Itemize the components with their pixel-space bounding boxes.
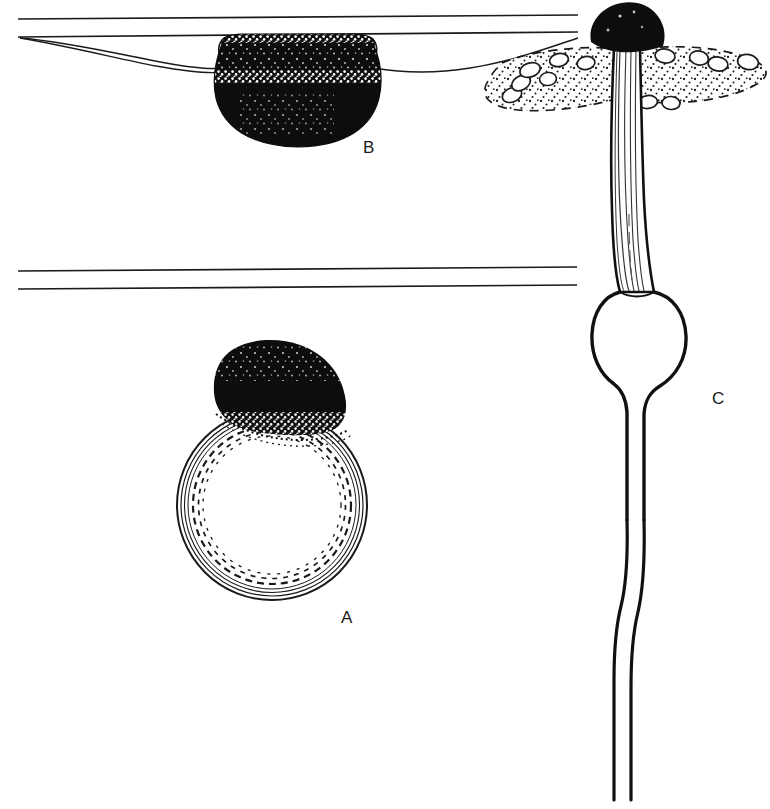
sporangium-rim-b — [214, 34, 384, 43]
cap-highlight — [641, 26, 643, 28]
sporangium-speckle-body-b — [238, 92, 334, 134]
cap-highlight — [618, 14, 621, 17]
vesicle-lumen — [208, 444, 336, 572]
figure-label-b: B — [363, 139, 375, 156]
figure-illustration — [0, 0, 770, 809]
figure-background — [0, 0, 770, 809]
sporangium-collar-band-b — [214, 70, 384, 83]
figure-label-a: A — [341, 609, 353, 626]
sporangium-speckle-upper-b — [214, 43, 384, 71]
cap-highlight — [633, 11, 636, 14]
figure-root: A B C — [0, 0, 770, 809]
figure-label-c: C — [712, 390, 725, 407]
substrate-cell — [662, 96, 681, 110]
cap-highlight — [607, 29, 610, 32]
